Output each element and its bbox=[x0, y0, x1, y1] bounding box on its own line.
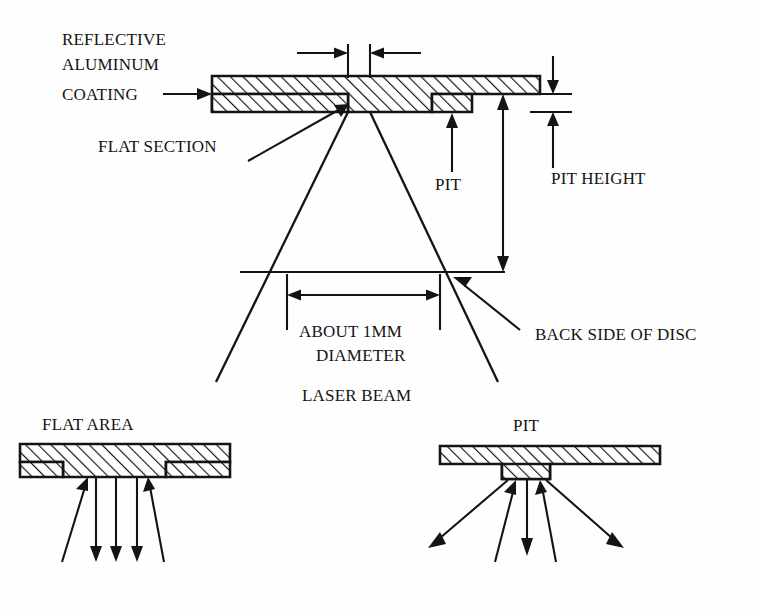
back-side-leader bbox=[453, 277, 520, 330]
label-reflective-line3: COATING bbox=[62, 85, 138, 104]
laser-beam-cone bbox=[216, 112, 498, 382]
label-diameter: DIAMETER bbox=[316, 346, 406, 365]
disc-thickness-dimension bbox=[497, 94, 509, 272]
pit-leader-main bbox=[446, 113, 458, 172]
label-back-side-of-disc: BACK SIDE OF DISC bbox=[535, 325, 697, 344]
label-laser-beam: LASER BEAM bbox=[302, 386, 411, 405]
label-flat-area-sub: FLAT AREA bbox=[42, 415, 134, 434]
flat-section-width-dimension bbox=[297, 44, 421, 78]
coating-leader-arrow bbox=[163, 88, 212, 100]
diagram-canvas: REFLECTIVE ALUMINUM COATING FLAT SECTION… bbox=[0, 0, 757, 610]
label-pit-height: PIT HEIGHT bbox=[551, 169, 646, 188]
pit-subdiagram bbox=[428, 446, 660, 562]
label-about-1mm: ABOUT 1MM bbox=[299, 322, 402, 341]
diagram-figure: REFLECTIVE ALUMINUM COATING FLAT SECTION… bbox=[0, 0, 757, 610]
label-pit-main: PIT bbox=[435, 175, 462, 194]
label-reflective-line2: ALUMINUM bbox=[62, 55, 159, 74]
label-flat-section: FLAT SECTION bbox=[98, 137, 217, 156]
flat-area-subdiagram bbox=[20, 444, 230, 562]
pit-outgoing-rays bbox=[428, 480, 624, 556]
label-pit-sub: PIT bbox=[513, 416, 540, 435]
pit-height-dimension bbox=[530, 56, 572, 168]
label-reflective-line1: REFLECTIVE bbox=[62, 30, 166, 49]
disc-profile-main bbox=[212, 76, 540, 112]
flat-area-outgoing-rays bbox=[90, 477, 143, 562]
